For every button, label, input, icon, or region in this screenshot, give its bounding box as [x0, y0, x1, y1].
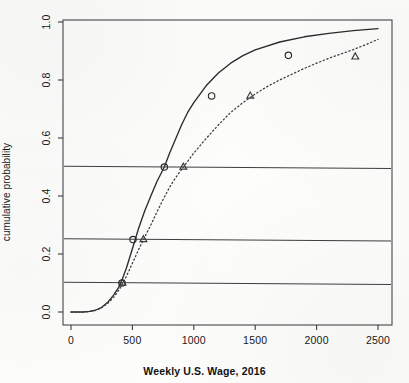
y-tick-label: 0.6 — [40, 130, 52, 145]
cdf-chart-figure: 05001000150020002500 0.00.20.40.60.81.0 … — [0, 0, 409, 383]
plot-canvas — [0, 0, 409, 383]
y-tick-label: 1.0 — [40, 14, 52, 29]
y-axis-title: cumulative probability — [1, 142, 12, 240]
x-tick-label: 1500 — [243, 334, 267, 346]
x-axis-title: Weekly U.S. Wage, 2016 — [0, 365, 409, 377]
y-tick-label: 0.4 — [40, 188, 52, 203]
x-tick-label: 500 — [123, 334, 141, 346]
x-tick-label: 0 — [68, 334, 74, 346]
fitted-curves — [71, 29, 378, 312]
x-tick-label: 2000 — [305, 334, 329, 346]
y-tick-label: 0.8 — [40, 72, 52, 87]
x-tick-label: 1000 — [182, 334, 206, 346]
x-tick-label: 2500 — [366, 334, 390, 346]
y-tick-label: 0.2 — [40, 246, 52, 261]
data-point-markers — [119, 52, 359, 286]
y-tick-label: 0.0 — [40, 304, 52, 319]
reference-lines — [64, 166, 391, 284]
